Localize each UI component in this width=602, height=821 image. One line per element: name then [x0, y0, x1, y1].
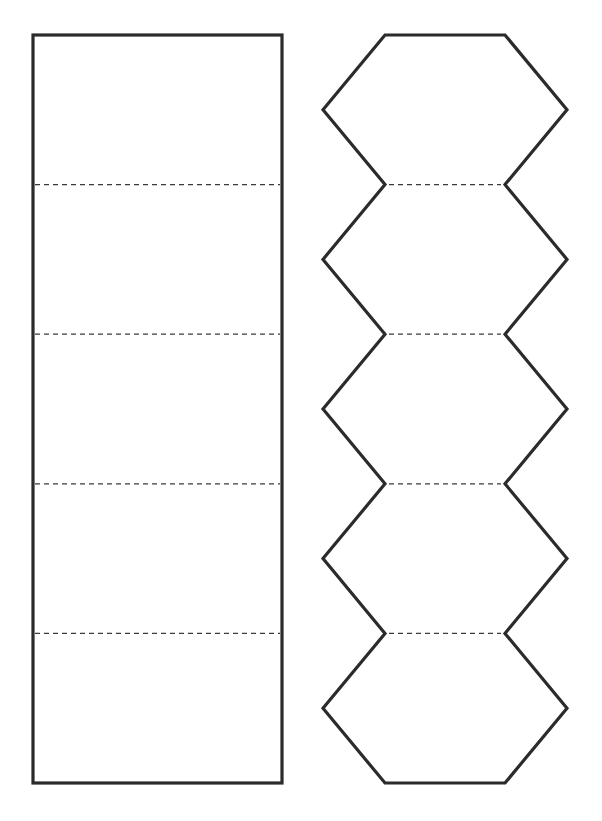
sheet-background [0, 0, 602, 821]
template-sheet [0, 0, 602, 821]
